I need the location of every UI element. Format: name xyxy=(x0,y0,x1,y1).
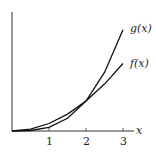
x-tick-label-3: 3 xyxy=(120,135,127,148)
curve-f xyxy=(12,64,123,132)
x-axis-label: x xyxy=(136,124,143,137)
x-tick-label-2: 2 xyxy=(83,135,90,148)
chart: g(x) f(x) x 1 2 3 xyxy=(0,0,156,157)
curve-g xyxy=(12,30,123,131)
label-f: f(x) xyxy=(129,57,149,70)
label-g: g(x) xyxy=(130,22,152,35)
x-tick-label-1: 1 xyxy=(46,135,53,148)
